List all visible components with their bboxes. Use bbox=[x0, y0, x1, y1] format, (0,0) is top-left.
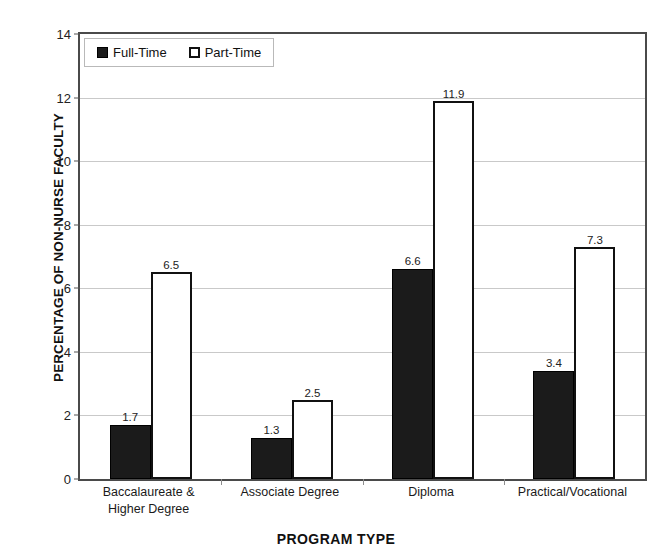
bar-part-time: 11.9 bbox=[433, 101, 474, 479]
y-tick-mark bbox=[74, 161, 80, 162]
y-tick-mark bbox=[74, 479, 80, 480]
legend-label-part-time: Part-Time bbox=[205, 45, 262, 60]
category-label: Practical/Vocational bbox=[502, 484, 643, 501]
category-label-line: Associate Degree bbox=[219, 484, 360, 501]
gridline bbox=[80, 98, 645, 99]
x-axis-title: PROGRAM TYPE bbox=[0, 531, 672, 547]
y-tick-label: 10 bbox=[57, 154, 71, 169]
category-label: Diploma bbox=[361, 484, 502, 501]
bar-value-label: 1.3 bbox=[263, 424, 279, 436]
bar-part-time: 7.3 bbox=[574, 247, 615, 479]
bar-part-time: 6.5 bbox=[151, 272, 192, 479]
category-label: Associate Degree bbox=[219, 484, 360, 501]
category-label-line: Baccalaureate & bbox=[78, 484, 219, 501]
y-tick-label: 12 bbox=[57, 90, 71, 105]
plot-area: 024681012141.76.51.32.56.611.93.47.3 bbox=[78, 32, 647, 481]
y-tick-mark bbox=[74, 97, 80, 98]
gridline bbox=[80, 225, 645, 226]
bar-value-label: 2.5 bbox=[304, 387, 320, 399]
legend-entry-full-time: Full-Time bbox=[97, 45, 167, 60]
y-tick-mark bbox=[74, 415, 80, 416]
bar-value-label: 11.9 bbox=[443, 88, 465, 100]
bar-full-time: 1.3 bbox=[251, 438, 292, 479]
bar-value-label: 3.4 bbox=[546, 357, 562, 369]
y-tick-mark bbox=[74, 224, 80, 225]
bar-part-time: 2.5 bbox=[292, 400, 333, 479]
bar-value-label: 1.7 bbox=[122, 411, 138, 423]
y-tick-label: 6 bbox=[64, 281, 71, 296]
category-label: Baccalaureate &Higher Degree bbox=[78, 484, 219, 518]
bar-full-time: 1.7 bbox=[110, 425, 151, 479]
legend-entry-part-time: Part-Time bbox=[189, 45, 262, 60]
y-tick-label: 14 bbox=[57, 27, 71, 42]
bar-full-time: 6.6 bbox=[392, 269, 433, 479]
bar-value-label: 6.6 bbox=[405, 255, 421, 267]
bar-full-time: 3.4 bbox=[533, 371, 574, 479]
y-tick-label: 4 bbox=[64, 344, 71, 359]
legend-label-full-time: Full-Time bbox=[113, 45, 167, 60]
y-tick-mark bbox=[74, 288, 80, 289]
y-tick-label: 2 bbox=[64, 408, 71, 423]
y-tick-mark bbox=[74, 351, 80, 352]
bar-value-label: 6.5 bbox=[163, 259, 179, 271]
gridline bbox=[80, 161, 645, 162]
legend-swatch-part-time-icon bbox=[189, 47, 200, 58]
y-tick-label: 8 bbox=[64, 217, 71, 232]
chart-legend: Full-Time Part-Time bbox=[84, 38, 274, 67]
category-label-line: Higher Degree bbox=[78, 501, 219, 518]
legend-swatch-full-time-icon bbox=[97, 47, 108, 58]
category-label-line: Diploma bbox=[361, 484, 502, 501]
bar-value-label: 7.3 bbox=[587, 234, 603, 246]
category-labels: Baccalaureate &Higher DegreeAssociate De… bbox=[78, 484, 643, 530]
category-label-line: Practical/Vocational bbox=[502, 484, 643, 501]
y-tick-mark bbox=[74, 34, 80, 35]
y-tick-label: 0 bbox=[64, 472, 71, 487]
